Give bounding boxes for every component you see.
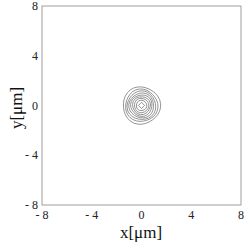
x-tick-label: 4 <box>188 208 194 222</box>
y-tick-label: 8 <box>32 0 38 13</box>
y-tick-label: - 8 <box>25 198 38 212</box>
x-axis-label: x[μm] <box>120 223 162 242</box>
y-axis-label: y[μm] <box>7 87 26 129</box>
contour-line <box>133 97 151 115</box>
y-tick-label: 4 <box>32 49 38 63</box>
contour-chart: - 8- 4048 - 8- 4048 x[μm] y[μm] <box>0 0 248 245</box>
contour-line <box>138 102 144 108</box>
x-tick-labels: - 8- 4048 <box>36 208 245 222</box>
contour-group <box>123 87 160 124</box>
plot-frame <box>42 6 241 205</box>
x-tick-label: 8 <box>238 208 244 222</box>
x-tick-label: 0 <box>139 208 145 222</box>
y-tick-labels: - 8- 4048 <box>25 0 38 212</box>
y-tick-label: 0 <box>32 99 38 113</box>
x-tick-label: - 4 <box>85 208 98 222</box>
y-tick-label: - 4 <box>25 148 38 162</box>
